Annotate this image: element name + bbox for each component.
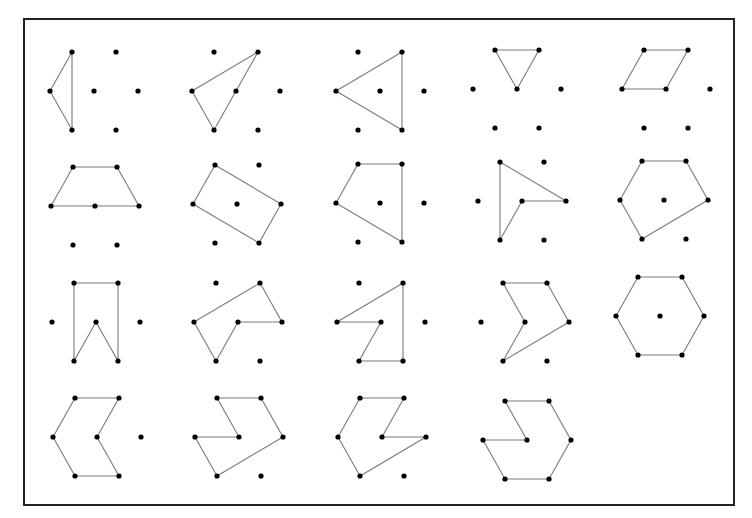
lattice-dot-tl [355, 49, 360, 54]
lattice-dot-mr [558, 86, 563, 91]
lattice-polygons-diagram [0, 0, 752, 518]
cell-r2c3 [333, 161, 426, 244]
lattice-dot-br [679, 352, 684, 357]
lattice-dot-bl [635, 352, 640, 357]
lattice-dot-ml [475, 198, 480, 203]
lattice-dot-bl [213, 358, 218, 363]
lattice-dot-c [519, 198, 524, 203]
lattice-dot-br [113, 127, 118, 132]
figure-canvas [0, 0, 752, 518]
lattice-dot-tl [212, 162, 217, 167]
cell-r3c5 [613, 274, 706, 357]
lattice-dot-mr [568, 437, 573, 442]
lattice-dot-mr [138, 434, 143, 439]
lattice-dot-br [401, 473, 406, 478]
lattice-dot-tr [536, 47, 541, 52]
lattice-dot-ml [478, 319, 483, 324]
lattice-dot-ml [50, 434, 55, 439]
lattice-dot-ml [189, 88, 194, 93]
lattice-dot-mr [280, 434, 285, 439]
lattice-dot-mr [135, 88, 140, 93]
lattice-dot-c [661, 197, 666, 202]
lattice-dot-c [522, 319, 527, 324]
lattice-dot-tl [357, 395, 362, 400]
lattice-dot-tr [685, 47, 690, 52]
cell-r4c2 [192, 395, 285, 478]
polygon-concave-hexagon [53, 398, 119, 476]
lattice-dot-tl [214, 395, 219, 400]
lattice-dot-ml [333, 200, 338, 205]
lattice-dot-br [256, 240, 261, 245]
lattice-dot-mr [566, 319, 571, 324]
cell-r2c4 [475, 159, 568, 242]
lattice-dot-tr [113, 49, 118, 54]
cell-r3c4 [478, 280, 571, 363]
lattice-dot-c [94, 434, 99, 439]
cell-r3c1 [49, 280, 142, 363]
polygon-parallelogram [622, 50, 688, 89]
lattice-dot-br [255, 127, 260, 132]
lattice-dot-bl [70, 242, 75, 247]
cell-r2c2 [190, 162, 283, 245]
polygon-triangle [192, 52, 258, 130]
lattice-dot-mr [423, 434, 428, 439]
lattice-dot-bl [355, 239, 360, 244]
lattice-dot-tr [400, 280, 405, 285]
lattice-dot-c [657, 313, 662, 318]
lattice-dot-br [400, 358, 405, 363]
lattice-dot-mr [278, 201, 283, 206]
lattice-dot-tr [541, 159, 546, 164]
polygon-trapezoid [51, 167, 139, 206]
lattice-dot-ml [333, 88, 338, 93]
lattice-dot-mr [136, 203, 141, 208]
lattice-dot-c [663, 86, 668, 91]
cell-r4c3 [335, 395, 428, 478]
lattice-dot-br [399, 127, 404, 132]
cell-r4c1 [50, 395, 143, 478]
lattice-dot-c [92, 203, 97, 208]
polygon-triangle [336, 52, 402, 130]
lattice-dot-tl [71, 280, 76, 285]
lattice-dot-ml [470, 86, 475, 91]
lattice-dot-tr [114, 164, 119, 169]
lattice-dot-br [116, 473, 121, 478]
lattice-dot-c [91, 88, 96, 93]
lattice-dot-ml [48, 203, 53, 208]
lattice-dot-c [377, 88, 382, 93]
polygon-concave-pentagon [337, 283, 403, 361]
lattice-dot-tl [492, 47, 497, 52]
lattice-dot-mr [279, 319, 284, 324]
lattice-dot-ml [192, 434, 197, 439]
lattice-dot-bl [212, 240, 217, 245]
lattice-dot-tl [641, 47, 646, 52]
lattice-dot-tl [502, 398, 507, 403]
lattice-dot-bl [357, 473, 362, 478]
lattice-dot-bl [497, 237, 502, 242]
lattice-dot-mr [421, 88, 426, 93]
lattice-dot-tr [401, 395, 406, 400]
lattice-dot-mr [277, 88, 282, 93]
lattice-dot-br [115, 358, 120, 363]
cell-r3c2 [191, 280, 284, 363]
lattice-dot-tl [639, 158, 644, 163]
lattice-dot-ml [334, 319, 339, 324]
lattice-dot-br [399, 239, 404, 244]
lattice-dot-tr [255, 49, 260, 54]
cell-r4c4 [480, 398, 573, 481]
cell-r1c5 [619, 47, 712, 130]
lattice-dot-mr [705, 197, 710, 202]
lattice-dot-tr [683, 158, 688, 163]
lattice-dot-br [544, 358, 549, 363]
lattice-dot-ml [47, 88, 52, 93]
lattice-dot-tl [213, 280, 218, 285]
polygon-concave-quadrilateral [500, 162, 566, 240]
lattice-dot-tl [500, 280, 505, 285]
lattice-dot-br [536, 125, 541, 130]
lattice-dot-ml [480, 437, 485, 442]
cell-r1c3 [333, 49, 426, 132]
lattice-dot-c [377, 200, 382, 205]
lattice-dot-br [541, 237, 546, 242]
lattice-dot-ml [335, 434, 340, 439]
lattice-dot-c [233, 88, 238, 93]
cell-r2c1 [48, 164, 141, 247]
